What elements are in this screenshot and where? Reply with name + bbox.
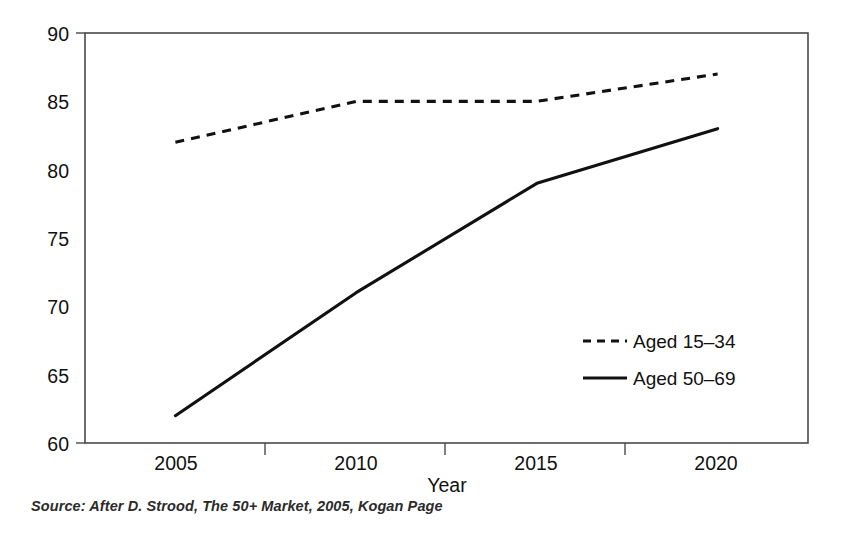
legend-label-aged-15-34: Aged 15–34 [633,331,736,352]
x-axis-tick-label: 2010 [334,452,378,474]
y-axis-tick-label: 65 [47,365,69,387]
series-line-aged-15-34 [175,74,717,142]
x-axis-title: Year [427,474,467,496]
x-axis-tick-label: 2020 [694,452,738,474]
chart-figure: 90 85 80 75 70 65 60 2005 2010 2015 2020… [0,0,848,541]
y-axis-tick-label: 80 [47,160,69,182]
source-caption: Source: After D. Strood, The 50+ Market,… [31,498,443,514]
y-axis-tick-label: 75 [47,228,69,250]
y-axis-tick-label: 60 [47,433,69,455]
x-axis-tick-label: 2015 [514,452,558,474]
line-chart: 90 85 80 75 70 65 60 2005 2010 2015 2020… [0,0,848,541]
y-axis-tick-label: 90 [47,23,69,45]
chart-legend: Aged 15–34 Aged 50–69 [583,331,736,389]
x-axis-tick-label: 2005 [154,452,198,474]
legend-label-aged-50-69: Aged 50–69 [633,368,736,389]
y-axis-tick-label: 85 [47,91,69,113]
y-axis-tick-label: 70 [47,296,69,318]
